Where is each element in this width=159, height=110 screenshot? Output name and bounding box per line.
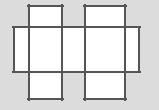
face-bottom-left [29, 72, 62, 100]
face-top-right [85, 5, 125, 27]
face-top-left [29, 5, 62, 27]
cube-net-svg [0, 0, 159, 110]
face-bottom-right [85, 72, 125, 100]
face-middle-band [13, 27, 140, 72]
cube-net-figure [0, 0, 159, 110]
